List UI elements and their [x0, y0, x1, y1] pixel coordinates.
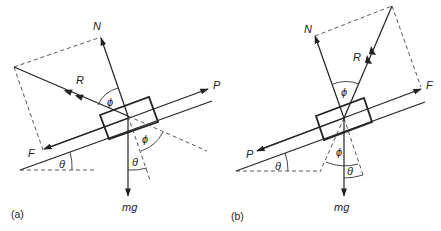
incline-line	[236, 102, 425, 171]
force-F	[44, 118, 128, 149]
label-phi-top: ϕ	[107, 96, 113, 108]
panel-a: N R P F mg ϕ ϕ θ θ (a)	[11, 20, 221, 220]
caption-b: (b)	[231, 210, 244, 222]
dashed-R-extension	[128, 116, 207, 151]
label-F: F	[28, 147, 36, 159]
phi-arc-bottom	[326, 162, 358, 166]
label-theta-bottom: θ	[132, 156, 138, 168]
label-P: P	[213, 79, 221, 91]
label-theta-bottom: θ	[347, 165, 353, 177]
dashed-N-to-R	[14, 37, 101, 67]
label-F: F	[426, 79, 434, 91]
label-mg: mg	[334, 201, 350, 213]
R-arrowhead-1	[64, 90, 73, 97]
label-mg: mg	[122, 201, 138, 213]
force-N	[315, 36, 344, 118]
dashed-R-to-F	[392, 6, 421, 87]
force-N	[101, 38, 128, 116]
label-N: N	[304, 23, 312, 35]
phi-arc-top	[333, 82, 359, 84]
force-P	[257, 118, 344, 151]
dashed-R-to-F	[14, 67, 43, 150]
label-theta-incline: θ	[59, 158, 65, 170]
R-arrowhead-2	[369, 46, 376, 55]
label-N: N	[93, 20, 101, 32]
label-R: R	[76, 74, 84, 86]
theta-arc-incline	[285, 153, 288, 171]
label-P: P	[246, 148, 254, 160]
theta-arc-bottom	[128, 168, 147, 170]
R-arrowhead-2	[75, 95, 84, 102]
force-diagram: N R P F mg ϕ ϕ θ θ (a)	[0, 0, 441, 231]
panel-b: N R P F mg ϕ ϕ θ θ (b)	[231, 6, 434, 222]
label-R: R	[353, 51, 361, 63]
label-phi-right: ϕ	[142, 133, 148, 145]
theta-arc-incline	[70, 152, 72, 170]
caption-a: (a)	[11, 208, 24, 220]
label-phi-bottom: ϕ	[336, 146, 342, 158]
label-phi-top: ϕ	[341, 86, 347, 98]
label-theta-incline: θ	[275, 160, 281, 172]
